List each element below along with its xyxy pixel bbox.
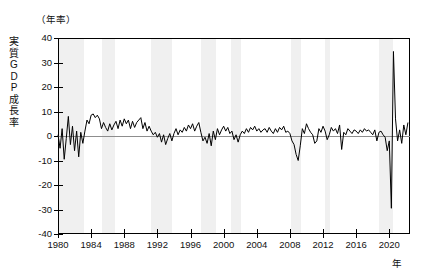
y-axis-title-char: 質 (6, 48, 22, 60)
x-tick-label: 2012 (312, 239, 333, 250)
y-tick-label: 20 (24, 81, 52, 92)
x-tick (124, 234, 125, 238)
y-tick-label: 0 (24, 130, 52, 141)
x-tick-label: 1984 (81, 239, 102, 250)
y-axis-title-char: 実 (6, 36, 22, 48)
y-tick-label: 10 (24, 106, 52, 117)
x-tick (389, 234, 390, 238)
x-tick (91, 234, 92, 238)
x-tick (290, 234, 291, 238)
x-axis-title: 年 (392, 256, 402, 270)
x-tick-label: 2004 (246, 239, 267, 250)
y-tick-label: 40 (24, 32, 52, 43)
gdp-growth-line (58, 38, 410, 234)
y-axis-title-char: D (6, 71, 22, 83)
x-tick (224, 234, 225, 238)
x-tick (157, 234, 158, 238)
y-tick-label: -10 (24, 155, 52, 166)
x-tick-label: 1992 (147, 239, 168, 250)
x-tick-label: 2020 (379, 239, 400, 250)
y-axis-title-char: G (6, 59, 22, 71)
y-axis-title-char: P (6, 82, 22, 94)
x-tick (356, 234, 357, 238)
x-tick-label: 1980 (47, 239, 68, 250)
chart-root: （年率） 実質GDP成長率 403020100-10-20-30-40 1980… (0, 0, 431, 277)
y-axis-unit-note: （年率） (36, 12, 76, 26)
x-tick-label: 2000 (213, 239, 234, 250)
x-tick (191, 234, 192, 238)
y-axis-title-char: 成 (6, 94, 22, 106)
y-tick-label: -30 (24, 204, 52, 215)
x-tick-label: 1996 (180, 239, 201, 250)
x-tick (257, 234, 258, 238)
y-axis-title: 実質GDP成長率 (6, 36, 22, 226)
y-axis-title-char: 率 (6, 117, 22, 129)
y-tick-label: -20 (24, 179, 52, 190)
y-tick-label: -40 (24, 228, 52, 239)
y-tick-inner (59, 234, 63, 235)
y-tick-label: 30 (24, 57, 52, 68)
x-tick-label: 2016 (346, 239, 367, 250)
y-axis-title-char: 長 (6, 105, 22, 117)
x-tick-label: 2008 (279, 239, 300, 250)
x-tick (323, 234, 324, 238)
x-tick (58, 234, 59, 238)
x-tick-label: 1988 (114, 239, 135, 250)
